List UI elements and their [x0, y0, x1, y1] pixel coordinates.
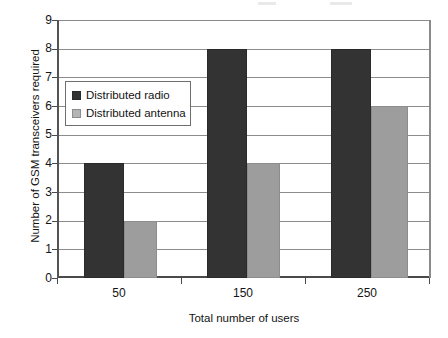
y-axis-title: Number of GSM transceivers required	[29, 16, 41, 276]
legend-swatch-icon	[72, 91, 81, 100]
bar-radio-250	[331, 49, 371, 278]
y-tick-label-5: 5	[36, 128, 52, 140]
legend-entry-radio: Distributed radio	[72, 86, 185, 104]
legend-swatch-icon	[72, 109, 81, 118]
x-tick-label-250: 250	[337, 286, 397, 300]
bar-antenna-50	[124, 221, 157, 278]
y-tick-label-6: 6	[36, 100, 52, 112]
scan-artifact	[330, 2, 352, 5]
legend-label-antenna: Distributed antenna	[86, 107, 186, 119]
x-tick-mark	[181, 278, 182, 284]
x-tick-mark	[305, 278, 306, 284]
x-tick-label-150: 150	[213, 286, 273, 300]
bar-radio-50	[84, 163, 124, 278]
x-tick-mark	[429, 278, 430, 284]
y-tick-label-4: 4	[36, 157, 52, 169]
x-axis-title: Total number of users	[57, 312, 431, 324]
bar-antenna-250	[371, 106, 408, 278]
y-tick-label-8: 8	[36, 42, 52, 54]
y-tick-label-1: 1	[36, 243, 52, 255]
gridline-9	[59, 20, 429, 21]
plot-area	[57, 20, 431, 278]
y-tick-label-3: 3	[36, 186, 52, 198]
bar-radio-150	[207, 49, 247, 278]
y-tick-label-0: 0	[36, 272, 52, 284]
scan-artifact	[258, 2, 276, 5]
bar-chart: Number of GSM transceivers required 9 8 …	[0, 0, 448, 338]
chart-legend: Distributed radio Distributed antenna	[65, 81, 191, 126]
y-tick-label-2: 2	[36, 214, 52, 226]
x-tick-mark	[57, 278, 58, 284]
legend-entry-antenna: Distributed antenna	[72, 104, 185, 122]
y-tick-label-9: 9	[36, 14, 52, 26]
legend-label-radio: Distributed radio	[86, 89, 170, 101]
x-tick-label-50: 50	[89, 286, 149, 300]
y-tick-label-7: 7	[36, 71, 52, 83]
bar-antenna-150	[247, 163, 280, 278]
